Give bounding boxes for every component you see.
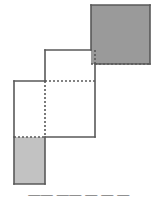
bottom-left-light-gray-rect [14, 137, 45, 184]
middle-white-square [45, 50, 95, 137]
geometry-figure: —— —— — — — [0, 0, 158, 198]
top-right-dark-square [91, 5, 150, 64]
figure-caption-clipped: —— —— — — — [0, 188, 158, 198]
shape-fills [14, 5, 150, 184]
figure-canvas [0, 0, 158, 198]
